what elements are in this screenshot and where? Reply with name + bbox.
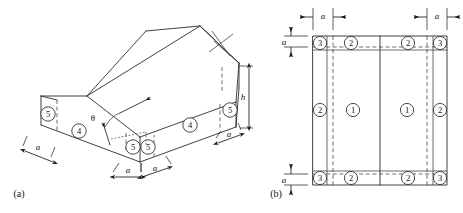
zone-marker: 4	[72, 124, 86, 138]
zone-marker: 5	[141, 140, 155, 154]
zone-marker: 1	[346, 103, 359, 116]
theta-label: θ	[91, 113, 95, 123]
zone-marker-label: 2	[318, 105, 322, 115]
zone-marker-label: 3	[438, 173, 442, 183]
dimension-label-a: a	[282, 175, 287, 185]
dimension-h-right: h	[239, 66, 253, 128]
dimension-a-plan-top-right: a	[414, 8, 460, 30]
dimension-a-plan-left-bottom: a	[282, 164, 308, 195]
dimension-label-a: a	[435, 11, 440, 21]
zone-marker-label: 5	[228, 105, 232, 115]
zone-marker-label: 5	[146, 142, 150, 152]
zone-marker-label: 2	[438, 105, 442, 115]
zone-marker-group-isometric: 5 4 5 5 4 5	[41, 103, 237, 154]
zone-marker-label: 2	[349, 38, 353, 48]
zone-marker: 2	[313, 103, 326, 116]
dimension-a-left: a	[23, 136, 55, 162]
zone-marker: 5	[41, 107, 55, 121]
zone-marker: 3	[433, 171, 446, 184]
dimension-label-a: a	[321, 11, 326, 21]
zone-marker: 3	[433, 36, 446, 49]
zone-marker-label: 5	[46, 109, 50, 119]
zone-marker: 4	[183, 118, 197, 132]
zone-marker: 2	[401, 36, 414, 49]
zone-marker: 1	[400, 103, 413, 116]
zone-marker: 2	[344, 36, 357, 49]
dimension-label-h: h	[241, 92, 246, 102]
zone-marker: 3	[313, 171, 326, 184]
zone-marker-label: 2	[406, 38, 410, 48]
panel-b-label: (b)	[270, 188, 282, 200]
dimension-a-plan-top-left: a	[300, 8, 346, 30]
panel-a-isometric: 5 4 5 5 4 5	[13, 26, 253, 200]
dimension-label-a: a	[153, 163, 158, 173]
zone-marker-label: 2	[406, 173, 410, 183]
dimension-a-plan-left-top: a	[282, 27, 308, 57]
zone-marker: 2	[401, 171, 414, 184]
figure-root: 5 4 5 5 4 5	[0, 0, 463, 213]
dimension-label-a: a	[126, 165, 131, 175]
zone-marker-label: 1	[405, 105, 409, 115]
dimension-a-bottom-left: a	[113, 163, 141, 177]
zone-marker-label: 1	[351, 105, 355, 115]
dimension-label-a: a	[36, 142, 41, 152]
roof-surfaces	[41, 26, 239, 137]
technical-diagram-svg: 5 4 5 5 4 5	[0, 0, 463, 213]
zone-marker-label: 2	[349, 173, 353, 183]
zone-marker: 5	[223, 103, 237, 117]
dimension-label-a: a	[227, 129, 232, 139]
panel-a-label: (a)	[13, 188, 24, 200]
zone-marker-label: 3	[318, 38, 322, 48]
panel-b-plan: 3 2 2 3 2 1 1	[270, 8, 460, 200]
zone-marker: 5	[126, 140, 140, 154]
zone-marker: 3	[313, 36, 326, 49]
zone-marker-label: 5	[131, 142, 135, 152]
dimension-a-bottom-right: a	[141, 156, 171, 177]
zone-marker: 2	[344, 171, 357, 184]
zone-marker-label: 3	[318, 173, 322, 183]
zone-marker-label: 3	[438, 38, 442, 48]
zone-marker: 2	[433, 103, 446, 116]
dimension-label-a: a	[282, 37, 287, 47]
